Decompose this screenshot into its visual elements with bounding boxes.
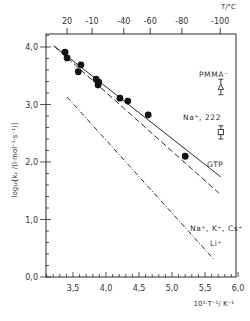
data-point <box>124 98 131 105</box>
top-axis-title: T/°C <box>221 3 236 11</box>
top-tick-label: -100 <box>211 17 229 26</box>
data-point <box>75 68 82 75</box>
data-point <box>145 111 152 118</box>
x-tick-label: 3,5 <box>67 284 80 293</box>
square-marker <box>218 130 223 135</box>
data-point <box>64 55 71 62</box>
top-tick-label: -10 <box>86 17 99 26</box>
x-tick-label: 5,5 <box>199 284 212 293</box>
label-na-222: Na⁺, 222 <box>183 113 221 122</box>
x-tick-label: 6,0 <box>232 284 245 293</box>
top-tick-label: -60 <box>144 17 157 26</box>
y-tick-label: 0,0 <box>25 273 38 282</box>
label-pmma: PMMA⁻ <box>199 70 229 79</box>
top-tick-label: 20 <box>62 17 72 26</box>
y-axis-title: log₁₀[kₚ /(l·mol⁻¹·s⁻¹)] <box>11 122 19 197</box>
temperature-axis: 20-10-40-60-80-100 <box>62 17 229 34</box>
data-point <box>78 61 85 68</box>
x-axis-title: 10³·T⁻¹/ K⁻¹ <box>194 300 235 308</box>
data-point <box>95 82 102 89</box>
y-tick-label: 3,0 <box>25 101 38 110</box>
y-tick-label: 4,0 <box>25 43 38 52</box>
triangle-marker <box>218 84 224 89</box>
x-axis: 3,54,04,55,05,56,0 <box>47 272 245 293</box>
label-li: Li⁺ <box>210 239 222 248</box>
x-tick-label: 4,0 <box>100 284 113 293</box>
label-gtp: GTP <box>207 160 223 169</box>
data-point <box>116 95 123 102</box>
top-tick-label: -80 <box>175 17 188 26</box>
x-tick-label: 5,0 <box>166 284 179 293</box>
label-na-k-cs: Na⁺, K⁺, Cs⁺ <box>190 224 243 233</box>
data-point <box>182 153 189 160</box>
data-points <box>62 49 189 160</box>
y-axis: 0,01,02,03,04,0 <box>25 36 51 283</box>
y-tick-label: 1,0 <box>25 216 38 225</box>
y-tick-label: 2,0 <box>25 158 38 167</box>
top-tick-label: -40 <box>117 17 130 26</box>
x-tick-label: 4,5 <box>133 284 146 293</box>
reference-markers <box>218 79 224 139</box>
arrhenius-chart: 3,54,04,55,05,56,0 0,01,02,03,04,0 20-10… <box>0 0 250 321</box>
